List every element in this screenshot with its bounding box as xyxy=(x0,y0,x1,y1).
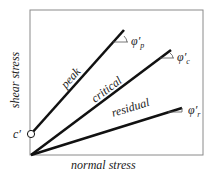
y-axis-label: shear stress xyxy=(8,51,22,108)
phi-residual-label: φ′r xyxy=(188,103,201,119)
x-axis-label: normal stress xyxy=(71,158,136,172)
cohesion-label: c′ xyxy=(13,127,21,141)
residual-label: residual xyxy=(110,95,152,120)
strength-envelope-diagram: peak critical residual φ′p φ′c φ′r c′ no… xyxy=(0,0,215,174)
residual-envelope-line xyxy=(31,108,182,155)
phi-peak-label: φ′p xyxy=(131,34,144,50)
cohesion-intercept-marker xyxy=(27,130,34,137)
peak-label: peak xyxy=(57,64,84,91)
critical-envelope-line xyxy=(31,50,171,155)
phi-critical-label: φ′c xyxy=(177,50,190,66)
